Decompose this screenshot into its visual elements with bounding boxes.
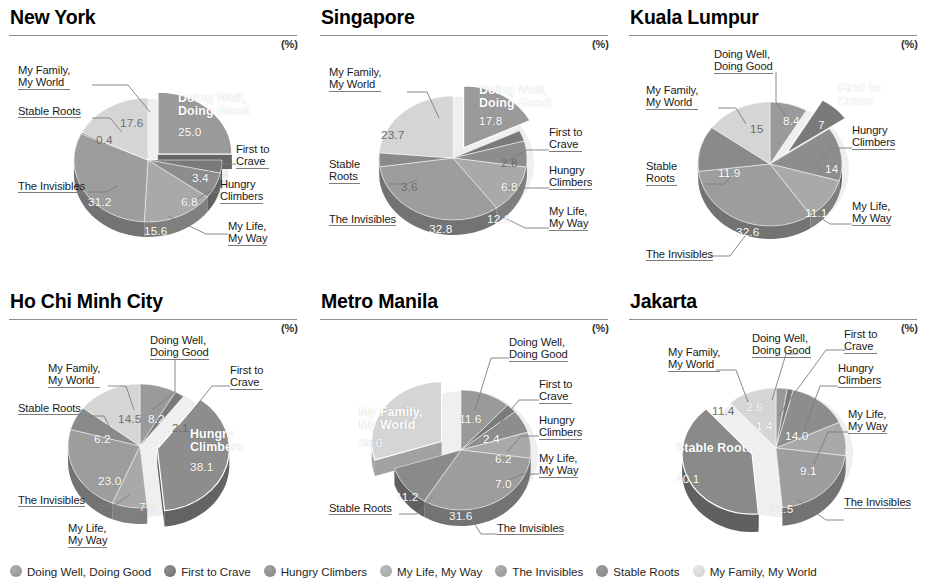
label-my-family-my-world: My Family, My World (668, 346, 720, 372)
pie-chart-jakarta: Doing Well, Doing GoodFirst to CraveHung… (620, 324, 929, 556)
page-title: New York (10, 6, 95, 29)
value-the-invisibles: 32.6 (736, 225, 759, 239)
label-first-to-crave: First to Crave (844, 328, 877, 354)
value-first-to-crave: 7 (818, 118, 825, 132)
value-my-life-my-way: 7.9 (139, 500, 156, 514)
label-doing-well-doing-good: Doing Well, Doing Good (150, 334, 209, 360)
label-the-invisibles: The Invisibles (329, 213, 396, 226)
label-my-life-my-way: My Life, My Way (228, 220, 267, 246)
legend-item-doing-well-doing-good: Doing Well, Doing Good (10, 565, 151, 578)
legend-label: Hungry Climbers (281, 565, 367, 578)
page-title: Singapore (321, 6, 415, 29)
pie-plot-metro-manila: Doing Well, Doing GoodFirst to CraveHung… (311, 324, 621, 562)
legend-label: My Family, My World (710, 565, 817, 578)
value-doing-well-doing-good-title: Doing Well, Doing Good (178, 92, 250, 119)
value-stable-roots: 11.9 (718, 166, 740, 180)
value-first-to-crave: 1.4 (756, 419, 773, 433)
value-hungry-climbers: 38.1 (190, 460, 213, 474)
value-stable-roots: 11.2 (396, 490, 418, 504)
value-doing-well-doing-good: 2.6 (746, 400, 763, 414)
value-my-life-my-way: 15.6 (144, 224, 167, 238)
value-doing-well-doing-good: 11.6 (459, 412, 481, 426)
legend-swatch-icon (264, 565, 276, 577)
label-hungry-climbers: Hungry Climbers (539, 414, 582, 440)
value-first-to-crave: 2.8 (501, 156, 518, 170)
value-stable-roots: 0.4 (96, 133, 113, 147)
legend-label: My Life, My Way (397, 565, 482, 578)
chart-panel-ho-chi-minh-city: Ho Chi Minh City (%) Doing Well, Doing G… (0, 284, 310, 556)
label-hungry-climbers: Hungry Climbers (838, 362, 881, 388)
value-first-to-crave: 2.1 (172, 421, 189, 435)
legend-swatch-icon (693, 565, 705, 577)
label-hungry-climbers: Hungry Climbers (852, 124, 895, 150)
pie-slice-family[interactable]: My Family, My World (379, 96, 453, 158)
label-my-life-my-way: My Life, My Way (848, 408, 887, 434)
legend-swatch-icon (380, 565, 392, 577)
label-doing-well-doing-good: Doing Well, Doing Good (752, 332, 811, 358)
legend-item-my-life-my-way: My Life, My Way (380, 565, 482, 578)
pie-plot-new-york: Doing Well, Doing GoodFirst to CraveHung… (0, 40, 310, 278)
legend-swatch-icon (495, 565, 507, 577)
value-first-to-crave: 3.4 (192, 171, 209, 185)
value-hungry-climbers: 14 (825, 162, 838, 176)
page-title: Ho Chi Minh City (10, 290, 163, 313)
value-stable-roots-title: Stable Roots (676, 442, 753, 455)
value-my-life-my-way: 12.6 (487, 212, 510, 226)
title-rule (320, 35, 608, 36)
legend-swatch-icon (164, 565, 176, 577)
label-my-family-my-world: My Family, My World (48, 362, 100, 388)
label-the-invisibles: The Invisibles (497, 522, 564, 535)
label-doing-well-doing-good: Doing Well, Doing Good (509, 336, 568, 362)
value-the-invisibles: 23.0 (98, 474, 121, 488)
label-the-invisibles: The Invisibles (844, 496, 911, 509)
value-hungry-climbers: 6.8 (501, 180, 518, 194)
legend: Doing Well, Doing GoodFirst to CraveHung… (0, 558, 929, 584)
label-first-to-crave: First to Crave (539, 378, 572, 404)
pie-plot-jakarta: Doing Well, Doing GoodFirst to CraveHung… (620, 324, 929, 562)
label-first-to-crave: First to Crave (230, 364, 263, 390)
label-stable-roots: Stable Roots (18, 402, 81, 415)
label-my-life-my-way: My Life, My Way (68, 522, 107, 548)
value-hungry-climbers: 14.0 (785, 429, 808, 443)
legend-item-first-to-crave: First to Crave (164, 565, 251, 578)
value-stable-roots: 6.2 (94, 432, 111, 446)
value-my-life-my-way: 11.1 (805, 206, 827, 220)
value-my-family-my-world: 14.5 (118, 412, 141, 426)
chart-panel-kuala-lumpur: Kuala Lumpur (%) Doing Well, Doing GoodF… (620, 0, 929, 278)
title-rule (9, 35, 297, 36)
chart-panel-new-york: New York (%) Doing Well, Doing GoodFirst… (0, 0, 310, 278)
label-my-life-my-way: My Life, My Way (549, 205, 588, 231)
chart-page: New York (%) Doing Well, Doing GoodFirst… (0, 0, 929, 586)
legend-swatch-icon (10, 565, 22, 577)
value-the-invisibles: 21.5 (770, 502, 793, 516)
value-hungry-climbers: 6.2 (495, 452, 512, 466)
legend-item-the-invisibles: The Invisibles (495, 565, 583, 578)
value-my-family-my-world-title: My Family, My World (359, 406, 422, 433)
label-my-family-my-world: My Family, My World (329, 66, 381, 92)
value-doing-well-doing-good: 8.4 (783, 114, 800, 128)
value-stable-roots: 40.1 (676, 472, 699, 486)
legend-item-my-family-my-world: My Family, My World (693, 565, 817, 578)
value-first-to-crave: 2.4 (483, 432, 500, 446)
label-stable-roots: Stable Roots (18, 105, 81, 118)
pie-plot-kuala-lumpur: Doing Well, Doing GoodFirst to CraveHung… (620, 40, 929, 278)
legend-label: Stable Roots (613, 565, 679, 578)
title-rule (629, 319, 917, 320)
value-my-family-my-world: 23.7 (381, 128, 404, 142)
chart-panel-jakarta: Jakarta (%) Doing Well, Doing GoodFirst … (620, 284, 929, 556)
page-title: Jakarta (630, 290, 697, 313)
value-hungry-climbers-title: Hungry Climbers (190, 428, 244, 455)
label-my-life-my-way: My Life, My Way (852, 200, 891, 226)
value-the-invisibles: 32.8 (429, 222, 452, 236)
value-doing-well-doing-good: 25.0 (178, 125, 201, 139)
pie-plot-singapore: Doing Well, Doing GoodFirst to CraveHung… (311, 40, 621, 278)
value-doing-well-doing-good: 8.2 (148, 412, 165, 426)
legend-item-hungry-climbers: Hungry Climbers (264, 565, 367, 578)
label-stable-roots: Stable Roots (329, 502, 392, 515)
title-rule (320, 319, 608, 320)
value-hungry-climbers: 6.8 (181, 195, 198, 209)
value-stable-roots: 3.6 (401, 180, 418, 194)
label-the-invisibles: The Invisibles (18, 494, 85, 507)
legend-swatch-icon (596, 565, 608, 577)
chart-panel-metro-manila: Metro Manila (%) Doing Well, Doing GoodF… (311, 284, 621, 556)
